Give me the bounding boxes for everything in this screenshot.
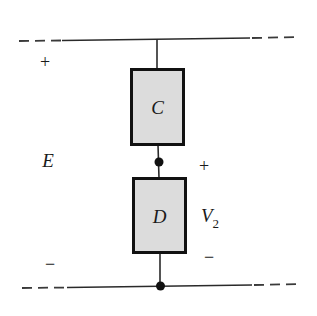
circuit-diagram: C D + E − + V2 − (0, 0, 317, 316)
bottom-rail-dashed-right (254, 284, 300, 285)
source-e-label: E (41, 150, 54, 171)
top-rail-dashed-right (252, 37, 297, 38)
bottom-node-dot (156, 282, 165, 291)
component-d: D (134, 179, 186, 253)
component-c-label: C (151, 97, 164, 118)
v2-minus-sign: − (204, 247, 214, 267)
source-minus-sign: − (45, 254, 55, 274)
top-rail-solid (62, 38, 250, 41)
junction-node-dot (155, 158, 164, 167)
v2-label: V2 (201, 205, 219, 231)
v2-plus-sign: + (199, 156, 209, 176)
top-rail-dashed-left (19, 41, 62, 42)
bottom-rail-dashed-left (22, 288, 67, 289)
component-d-label: D (152, 206, 167, 227)
v2-label-subscript: 2 (213, 216, 220, 231)
component-c: C (132, 70, 184, 145)
source-plus-sign: + (40, 52, 50, 72)
top-rail (19, 37, 297, 41)
